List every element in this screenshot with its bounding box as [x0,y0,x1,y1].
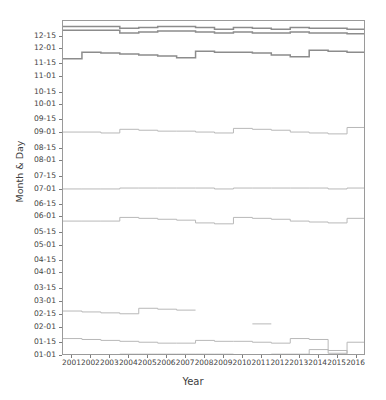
series-line [63,27,365,30]
x-tick-mark [223,355,224,358]
chart-figure: Month & Day Year 01-0101-1502-0102-1503-… [0,0,386,400]
y-tick-label: 06-15 [22,199,56,208]
series-line [63,127,365,133]
x-tick-mark [356,355,357,358]
series-line [63,350,365,355]
y-tick-label: 06-01 [22,211,56,220]
y-tick-label: 10-01 [22,99,56,108]
y-tick-label: 03-01 [22,296,56,305]
x-tick-label: 2016 [339,358,373,367]
x-tick-mark [147,355,148,358]
series-line [63,339,365,354]
y-tick-mark [59,355,62,356]
y-tick-label: 09-01 [22,127,56,136]
y-tick-label: 02-15 [22,309,56,318]
y-tick-label: 12-15 [22,31,56,40]
series-lines [63,21,365,355]
y-tick-label: 04-15 [22,255,56,264]
x-axis-title: Year [0,376,386,387]
x-tick-mark [90,355,91,358]
x-tick-mark [280,355,281,358]
y-tick-label: 10-15 [22,87,56,96]
x-tick-mark [204,355,205,358]
y-tick-label: 07-01 [22,184,56,193]
series-line [63,30,365,34]
x-tick-mark [337,355,338,358]
y-tick-label: 04-01 [22,267,56,276]
series-line [63,188,365,189]
x-tick-mark [166,355,167,358]
x-tick-mark [318,355,319,358]
x-tick-mark [299,355,300,358]
y-tick-label: 08-01 [22,155,56,164]
x-tick-mark [185,355,186,358]
x-tick-mark [109,355,110,358]
y-tick-label: 05-15 [22,227,56,236]
series-line [63,308,196,314]
y-tick-label: 12-01 [22,43,56,52]
y-tick-label: 03-15 [22,283,56,292]
x-tick-mark [261,355,262,358]
series-line [63,217,365,223]
y-tick-label: 11-15 [22,58,56,67]
x-tick-mark [128,355,129,358]
y-tick-label: 02-01 [22,322,56,331]
y-tick-label: 01-01 [22,350,56,359]
plot-area [62,20,365,355]
x-tick-mark [71,355,72,358]
y-tick-label: 07-15 [22,171,56,180]
x-tick-mark [242,355,243,358]
y-tick-label: 11-01 [22,71,56,80]
y-tick-label: 05-01 [22,240,56,249]
y-tick-label: 01-15 [22,337,56,346]
series-line [63,50,365,58]
y-tick-label: 09-15 [22,114,56,123]
y-tick-label: 08-15 [22,143,56,152]
